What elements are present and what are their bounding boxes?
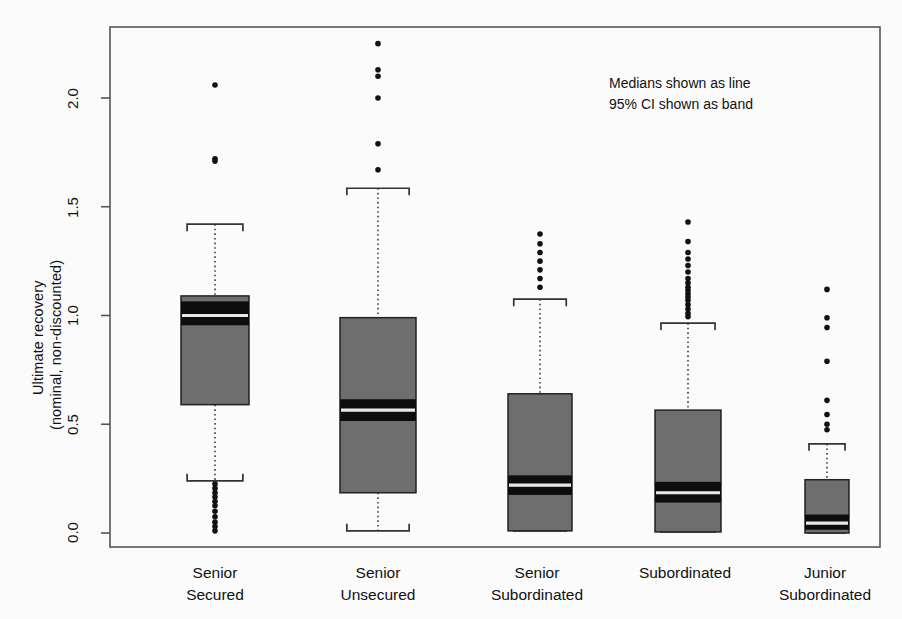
outlier-point <box>212 528 218 534</box>
box-iqr <box>508 394 572 531</box>
outlier-point <box>824 358 830 364</box>
outlier-point <box>375 141 381 147</box>
outlier-point <box>824 398 830 404</box>
box-group-2 <box>340 41 416 531</box>
outlier-point <box>537 231 543 237</box>
outlier-point <box>375 67 381 73</box>
ci-band <box>181 301 249 325</box>
outlier-point <box>824 421 830 427</box>
outlier-point <box>212 82 218 88</box>
plot-canvas <box>0 0 902 619</box>
outlier-point <box>537 276 543 282</box>
outlier-point <box>375 167 381 173</box>
outlier-point <box>824 427 830 433</box>
outlier-point <box>824 325 830 331</box>
boxes-layer <box>181 41 849 534</box>
outlier-point <box>824 412 830 418</box>
outlier-point <box>375 41 381 47</box>
outlier-point <box>824 315 830 321</box>
outlier-point <box>375 73 381 79</box>
outlier-point <box>685 314 691 320</box>
boxplot-figure: Ultimate recovery (nominal, non-discount… <box>0 0 902 619</box>
outlier-point <box>824 287 830 293</box>
outlier-point <box>537 250 543 256</box>
outlier-point <box>537 267 543 273</box>
box-group-3 <box>508 231 572 531</box>
outlier-point <box>685 263 691 269</box>
axes-layer <box>101 27 880 547</box>
outlier-point <box>375 95 381 101</box>
outlier-point <box>685 250 691 256</box>
box-group-5 <box>805 287 849 533</box>
outlier-point <box>212 508 218 514</box>
outlier-point <box>537 241 543 247</box>
box-iqr <box>655 410 721 532</box>
outlier-point <box>685 269 691 275</box>
outlier-point <box>685 239 691 245</box>
box-group-1 <box>181 82 249 533</box>
outlier-point <box>212 514 218 520</box>
outlier-point <box>685 219 691 225</box>
outlier-point <box>537 284 543 290</box>
box-group-4 <box>655 219 721 532</box>
outlier-point <box>212 503 218 509</box>
plot-frame <box>110 27 880 547</box>
outlier-point <box>212 158 218 164</box>
outlier-point <box>537 258 543 264</box>
outlier-point <box>685 256 691 262</box>
